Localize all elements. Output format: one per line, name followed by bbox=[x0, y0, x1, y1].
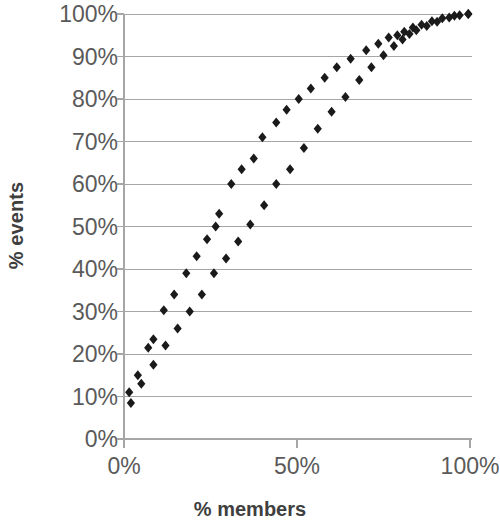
x-tick-label-100%: 100% bbox=[441, 455, 500, 478]
x-axis-tick-labels: 0%50%100% bbox=[0, 0, 500, 530]
x-tick-label-0%: 0% bbox=[107, 455, 140, 478]
x-axis-title: % members bbox=[0, 498, 500, 521]
x-tick-label-50%: 50% bbox=[274, 455, 320, 478]
scatter-chart: % events 0%10%20%30%40%50%60%70%80%90%10… bbox=[0, 0, 500, 530]
